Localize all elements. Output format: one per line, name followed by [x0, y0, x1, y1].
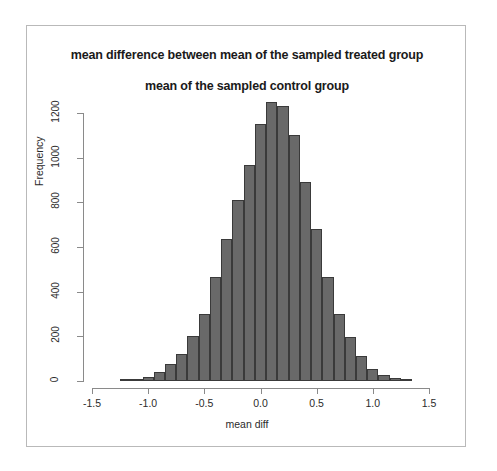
histogram-bar: [378, 375, 389, 381]
histogram-bar: [165, 364, 176, 381]
histogram-bar: [131, 379, 142, 381]
histogram-bar: [277, 106, 288, 381]
histogram-bar: [345, 337, 356, 381]
plot-area: 020040060080010001200 -1.5-1.0-0.50.00.5…: [27, 26, 467, 448]
histogram-bar: [334, 314, 345, 381]
histogram-bar: [176, 354, 187, 381]
histogram-bar: [154, 372, 165, 381]
histogram-bar: [289, 135, 300, 381]
histogram-bar: [266, 102, 277, 381]
histogram-bar: [322, 277, 333, 381]
x-axis-label: mean diff: [27, 418, 467, 430]
histogram-bar: [120, 379, 131, 381]
plot-frame: mean difference between mean of the samp…: [26, 25, 466, 447]
histogram-bar: [244, 165, 255, 381]
histogram-bar: [255, 124, 266, 381]
y-axis-label: Frequency: [33, 66, 45, 186]
histogram-bar: [367, 369, 378, 381]
histogram-bars: [27, 26, 467, 448]
histogram-bar: [199, 314, 210, 381]
histogram-bar: [232, 200, 243, 381]
figure-root: mean difference between mean of the samp…: [0, 0, 497, 471]
histogram-bar: [356, 356, 367, 381]
histogram-bar: [311, 229, 322, 381]
histogram-bar: [210, 277, 221, 381]
histogram-bar: [143, 377, 154, 381]
histogram-bar: [300, 182, 311, 381]
histogram-bar: [187, 336, 198, 381]
histogram-bar: [401, 379, 412, 381]
histogram-bar: [390, 378, 401, 381]
histogram-bar: [221, 239, 232, 381]
